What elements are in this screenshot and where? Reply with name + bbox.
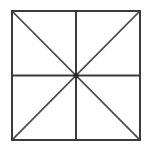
square-diagonals-diagram bbox=[0, 0, 152, 154]
geometric-figure-canvas bbox=[0, 0, 152, 154]
center-vertex-hub bbox=[73, 73, 78, 78]
